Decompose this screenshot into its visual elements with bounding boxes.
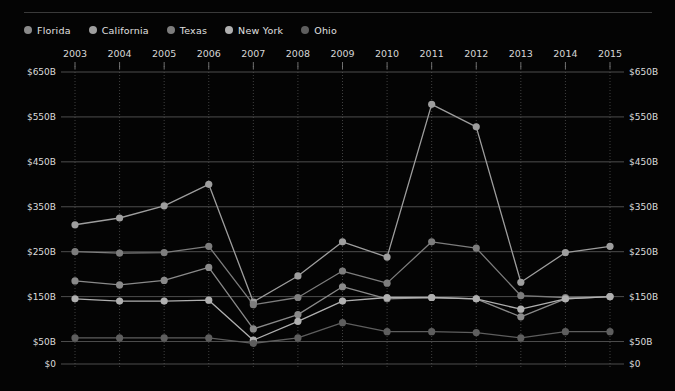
data-point-california-2009[interactable] [339,238,346,245]
y-axis-label-right-5: $450B [629,157,658,167]
data-point-texas-2007[interactable] [250,301,257,308]
data-point-texas-2005[interactable] [161,249,168,256]
y-axis-label-right-7: $650B [629,67,658,77]
x-axis-label-2014: 2014 [553,48,577,59]
y-axis-label-left-3: $250B [27,247,56,257]
data-point-florida-2004[interactable] [116,281,123,288]
data-point-new-york-2011[interactable] [428,294,435,301]
data-point-new-york-2014[interactable] [562,295,569,302]
data-point-ohio-2009[interactable] [339,319,346,326]
y-axis-label-right-4: $350B [629,202,658,212]
x-axis-label-2004: 2004 [107,48,131,59]
data-point-ohio-2006[interactable] [205,334,212,341]
x-axis-label-2015: 2015 [598,48,622,59]
data-point-ohio-2012[interactable] [473,329,480,336]
x-axis-label-2009: 2009 [330,48,354,59]
data-point-ohio-2013[interactable] [517,334,524,341]
data-point-florida-2013[interactable] [517,313,524,320]
data-point-california-2003[interactable] [71,221,78,228]
x-axis-label-2006: 2006 [197,48,221,59]
y-axis-label-right-0: $0 [629,359,640,369]
y-axis-label-left-6: $550B [27,112,56,122]
data-point-california-2008[interactable] [294,272,301,279]
data-point-new-york-2008[interactable] [294,318,301,325]
y-axis-label-left-1: $50B [33,337,56,347]
x-axis-label-2011: 2011 [420,48,444,59]
y-axis-label-left-2: $150B [27,292,56,302]
data-point-florida-2009[interactable] [339,283,346,290]
data-point-new-york-2003[interactable] [71,295,78,302]
data-point-florida-2006[interactable] [205,264,212,271]
data-point-florida-2008[interactable] [294,311,301,318]
data-point-ohio-2014[interactable] [562,328,569,335]
x-axis-label-2013: 2013 [509,48,533,59]
data-point-texas-2010[interactable] [383,280,390,287]
data-point-texas-2006[interactable] [205,243,212,250]
data-point-ohio-2003[interactable] [71,334,78,341]
data-point-ohio-2011[interactable] [428,328,435,335]
data-point-ohio-2004[interactable] [116,334,123,341]
x-axis-label-2007: 2007 [241,48,265,59]
y-axis-label-left-7: $650B [27,67,56,77]
data-point-texas-2013[interactable] [517,292,524,299]
data-point-texas-2004[interactable] [116,249,123,256]
x-axis-label-2008: 2008 [286,48,310,59]
y-axis-label-left-4: $350B [27,202,56,212]
data-point-california-2015[interactable] [606,243,613,250]
data-point-california-2010[interactable] [383,253,390,260]
chart-page: FloridaCaliforniaTexasNew YorkOhio 20032… [0,0,675,391]
data-point-california-2011[interactable] [428,101,435,108]
data-point-california-2012[interactable] [473,123,480,130]
data-point-new-york-2015[interactable] [606,293,613,300]
x-axis-label-2010: 2010 [375,48,399,59]
data-point-new-york-2012[interactable] [473,295,480,302]
data-point-california-2013[interactable] [517,279,524,286]
data-point-texas-2011[interactable] [428,238,435,245]
x-axis-label-2005: 2005 [152,48,176,59]
y-axis-label-right-3: $250B [629,247,658,257]
data-point-florida-2005[interactable] [161,277,168,284]
data-point-california-2005[interactable] [161,202,168,209]
data-point-ohio-2005[interactable] [161,334,168,341]
y-axis-label-right-6: $550B [629,112,658,122]
data-point-texas-2012[interactable] [473,245,480,252]
data-point-florida-2003[interactable] [71,277,78,284]
data-point-ohio-2007[interactable] [250,340,257,347]
y-axis-label-right-1: $50B [629,337,652,347]
data-point-ohio-2010[interactable] [383,328,390,335]
data-point-new-york-2009[interactable] [339,298,346,305]
data-point-texas-2008[interactable] [294,294,301,301]
data-point-ohio-2008[interactable] [294,334,301,341]
data-point-florida-2007[interactable] [250,325,257,332]
data-point-new-york-2013[interactable] [517,306,524,313]
y-axis-label-left-5: $450B [27,157,56,167]
x-axis-label-2003: 2003 [63,48,87,59]
x-axis-label-2012: 2012 [464,48,488,59]
data-point-california-2014[interactable] [562,249,569,256]
y-axis-label-left-0: $0 [45,359,56,369]
data-point-california-2006[interactable] [205,181,212,188]
data-point-new-york-2004[interactable] [116,298,123,305]
data-point-new-york-2005[interactable] [161,298,168,305]
data-point-ohio-2015[interactable] [606,328,613,335]
y-axis-label-right-2: $150B [629,292,658,302]
data-point-new-york-2006[interactable] [205,297,212,304]
data-point-texas-2003[interactable] [71,248,78,255]
data-point-texas-2009[interactable] [339,267,346,274]
data-point-new-york-2010[interactable] [383,294,390,301]
data-point-california-2004[interactable] [116,214,123,221]
